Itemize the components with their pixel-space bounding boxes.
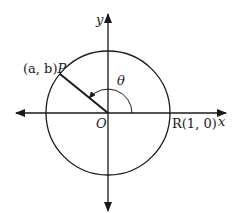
- point-p-coords: (a, b): [23, 61, 57, 76]
- x-axis-label: x: [218, 114, 226, 129]
- angle-theta-arc: [90, 89, 133, 113]
- unit-circle-diagram: y x O θ R(1, 0) (a, b)P: [0, 0, 239, 213]
- angle-theta-label: θ: [117, 73, 125, 88]
- point-p-name: P: [56, 61, 66, 76]
- point-p-label: (a, b)P: [23, 61, 66, 76]
- diagram-canvas: y x O θ R(1, 0) (a, b)P: [0, 0, 239, 213]
- point-r-label: R(1, 0): [172, 116, 217, 131]
- origin-label: O: [96, 116, 107, 131]
- y-axis-label: y: [95, 12, 104, 27]
- radius-op: [60, 74, 108, 113]
